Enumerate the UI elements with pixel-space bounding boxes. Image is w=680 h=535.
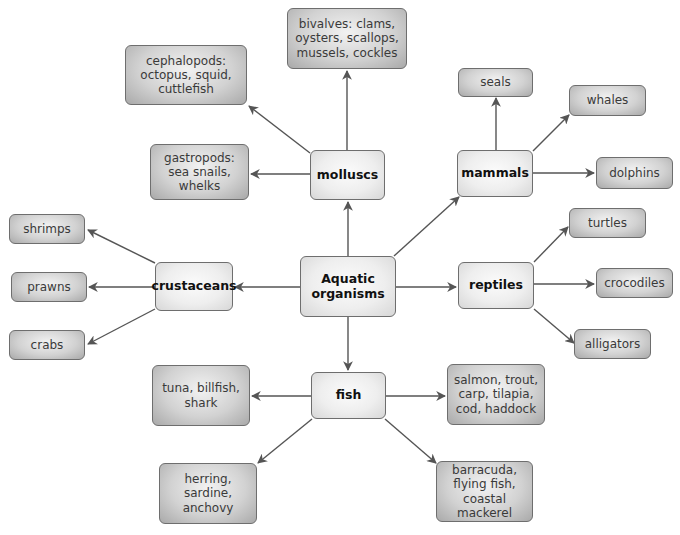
arrow-molluscs-cephalopods	[249, 106, 310, 153]
leaf-tuna-billfish-shark: tuna, billfish, shark	[152, 365, 250, 426]
arrow-crustaceans-shrimps	[88, 230, 155, 263]
category-crustaceans: crustaceans	[155, 262, 233, 311]
root-node-aquatic-organisms: Aquatic organisms	[300, 256, 396, 317]
leaf-bivalves: bivalves: clams, oysters, scallops, muss…	[287, 8, 407, 69]
leaf-cephalopods: cephalopods: octopus, squid, cuttlefish	[125, 45, 247, 105]
arrow-reptiles-alligators	[534, 309, 574, 343]
arrow-reptiles-turtles	[534, 227, 568, 262]
arrow-fish-herring	[258, 419, 312, 463]
leaf-label: gastropods: sea snails, whelks	[164, 151, 235, 193]
leaf-label: turtles	[588, 216, 627, 230]
arrow-mammals-whales	[533, 115, 569, 151]
category-label: mammals	[461, 166, 529, 181]
leaf-label: barracuda, flying fish, coastal mackerel	[437, 463, 532, 520]
leaf-shrimps: shrimps	[9, 214, 85, 244]
category-label: fish	[336, 388, 362, 403]
leaf-label: cephalopods: octopus, squid, cuttlefish	[140, 54, 231, 96]
leaf-prawns: prawns	[11, 272, 87, 302]
category-label: reptiles	[469, 278, 523, 293]
leaf-label: tuna, billfish, shark	[162, 381, 240, 409]
arrow-crustaceans-crabs	[88, 309, 155, 344]
arrow-root-mammals	[394, 197, 459, 256]
leaf-turtles: turtles	[569, 208, 646, 238]
leaf-salmon-trout-carp: salmon, trout, carp, tilapia, cod, haddo…	[447, 364, 545, 425]
leaf-label: bivalves: clams, oysters, scallops, muss…	[295, 17, 399, 59]
leaf-crabs: crabs	[9, 330, 85, 360]
leaf-label: crabs	[31, 338, 64, 352]
leaf-label: crocodiles	[604, 276, 664, 290]
category-molluscs: molluscs	[310, 150, 385, 200]
leaf-barracuda-flying-fish: barracuda, flying fish, coastal mackerel	[436, 461, 533, 522]
leaf-dolphins: dolphins	[596, 157, 673, 189]
leaf-label: seals	[480, 75, 511, 89]
leaf-alligators: alligators	[574, 329, 651, 359]
leaf-label: prawns	[27, 280, 71, 294]
arrow-fish-barracuda	[385, 419, 436, 463]
leaf-herring-sardine-anchovy: herring, sardine, anchovy	[159, 463, 257, 524]
mind-map-diagram: Aquatic organisms molluscs mammals crust…	[0, 0, 680, 535]
leaf-seals: seals	[458, 68, 533, 97]
root-label: Aquatic organisms	[311, 272, 384, 302]
category-label: molluscs	[317, 168, 378, 183]
category-reptiles: reptiles	[458, 262, 534, 309]
leaf-whales: whales	[569, 85, 646, 116]
leaf-label: herring, sardine, anchovy	[160, 472, 256, 514]
leaf-label: alligators	[585, 337, 641, 351]
leaf-gastropods: gastropods: sea snails, whelks	[150, 144, 249, 200]
leaf-label: dolphins	[609, 166, 660, 180]
category-label: crustaceans	[152, 279, 237, 294]
category-fish: fish	[311, 372, 386, 419]
leaf-label: whales	[587, 93, 629, 107]
leaf-crocodiles: crocodiles	[596, 268, 673, 298]
category-mammals: mammals	[457, 150, 533, 197]
leaf-label: salmon, trout, carp, tilapia, cod, haddo…	[454, 373, 538, 415]
leaf-label: shrimps	[23, 222, 71, 236]
